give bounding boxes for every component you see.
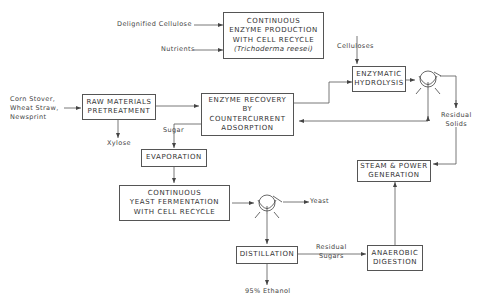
raw-materials-pretreatment-box: RAW MATERIALS PRETREATMENT [82, 94, 156, 120]
residual-sugars-line: Residual [316, 243, 347, 252]
box-line: DIGESTION [373, 258, 417, 268]
steam-power-generation-box: STEAM & POWER GENERATION [357, 160, 431, 182]
label-feedstock: Corn Stover, Wheat Straw, Newsprint [10, 95, 59, 122]
box-line: ANAEROBIC [372, 249, 419, 259]
label-sugar: Sugar [163, 126, 184, 135]
box-line: WITH CELL RECYCLE [233, 36, 314, 46]
distillation-box: DISTILLATION [236, 246, 298, 264]
box-line: YEAST FERMENTATION [130, 198, 219, 208]
box-line: COUNTERCURRENT [209, 115, 285, 125]
box-line: WITH CELL RECYCLE [134, 208, 215, 218]
label-ethanol: 95% Ethanol [245, 287, 291, 296]
enzymatic-hydrolysis-box: ENZYMATIC HYDROLYSIS [352, 66, 406, 92]
yeast-fermentation-box: CONTINUOUS YEAST FERMENTATION WITH CELL … [119, 185, 230, 221]
box-line-organism: (Trichoderma reesei) [234, 45, 313, 55]
box-line: CONTINUOUS [148, 189, 201, 199]
label-nutrients: Nutrients [161, 45, 195, 54]
box-line: CONTINUOUS [247, 17, 300, 27]
label-residual-solids: Residual Solids [441, 111, 472, 129]
label-residual-sugars: Residual Sugars [316, 243, 347, 261]
anaerobic-digestion-box: ANAEROBIC DIGESTION [367, 245, 423, 271]
box-line: HYDROLYSIS [354, 79, 404, 89]
enzyme-production-box: CONTINUOUS ENZYME PRODUCTION WITH CELL R… [223, 12, 324, 59]
enzyme-recovery-box: ENZYME RECOVERY BY COUNTERCURRENT ADSORP… [201, 93, 294, 136]
residual-solids-line: Residual [441, 111, 472, 120]
feedstock-line: Corn Stover, [10, 95, 59, 104]
label-delignified-cellulose: Delignified Cellulose [117, 20, 192, 29]
process-flow-diagram: CONTINUOUS ENZYME PRODUCTION WITH CELL R… [0, 0, 482, 306]
centrifuge-icon [255, 195, 282, 218]
box-line: GENERATION [368, 171, 419, 181]
box-line: ADSORPTION [221, 124, 273, 134]
centrifuge-icon [416, 71, 441, 94]
residual-solids-line: Solids [441, 120, 472, 129]
box-line: BY [243, 105, 253, 115]
box-line: EVAPORATION [146, 153, 202, 163]
box-line: ENZYMATIC [356, 70, 402, 80]
label-xylose: Xylose [107, 139, 131, 148]
feedstock-line: Wheat Straw, [10, 104, 59, 113]
box-line: STEAM & POWER [360, 162, 428, 172]
box-line: DISTILLATION [240, 250, 295, 260]
residual-sugars-line: Sugars [316, 252, 347, 261]
box-line: ENZYME RECOVERY [209, 96, 287, 106]
feedstock-line: Newsprint [10, 113, 59, 122]
label-yeast: Yeast [310, 197, 329, 206]
box-line: ENZYME PRODUCTION [229, 26, 318, 36]
label-cellulases: Celluloses [337, 42, 374, 51]
evaporation-box: EVAPORATION [141, 149, 207, 167]
box-line: PRETREATMENT [88, 107, 151, 117]
box-line: RAW MATERIALS [87, 98, 152, 108]
